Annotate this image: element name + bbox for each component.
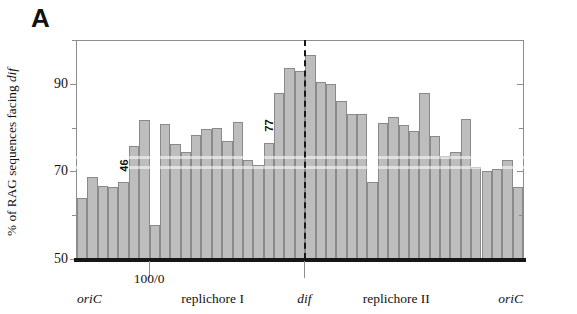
x-axis-label: oriC	[24, 291, 154, 307]
bar	[118, 182, 128, 259]
y-axis-minor-tick	[72, 128, 77, 129]
bar	[87, 177, 97, 259]
bar	[284, 68, 294, 259]
bar-series	[76, 40, 524, 259]
bar-value-callout: 77	[263, 118, 274, 134]
bar	[98, 186, 108, 259]
y-axis-major-tick	[70, 171, 77, 172]
bar	[191, 135, 201, 259]
x-axis-baseline	[74, 258, 526, 262]
bar	[108, 187, 118, 259]
bar	[357, 114, 367, 259]
bar-value-callout: 46	[118, 158, 129, 174]
y-axis-minor-tick-right	[519, 40, 524, 41]
bar	[316, 82, 326, 259]
bar	[430, 136, 440, 259]
bar	[367, 182, 377, 259]
x-axis-tick	[304, 261, 305, 278]
bar	[139, 120, 149, 259]
bar	[201, 129, 211, 259]
y-axis-minor-tick	[72, 40, 77, 41]
y-axis-tick-label: 90	[34, 77, 68, 91]
bar	[243, 160, 253, 259]
y-axis-title: % of RAG sequences facing dif	[0, 40, 24, 264]
bar	[388, 117, 398, 259]
bar	[440, 156, 450, 259]
bar	[222, 141, 232, 259]
bar	[513, 187, 523, 259]
dif-position-marker-line	[304, 40, 306, 259]
y-axis-major-tick	[70, 84, 77, 85]
y-axis-major-tick-right	[517, 84, 524, 85]
x-axis-label: oriC	[446, 291, 576, 307]
y-axis-major-tick-right	[517, 171, 524, 172]
bar	[492, 169, 502, 259]
bar	[253, 165, 263, 259]
bar	[336, 101, 346, 259]
bar	[378, 123, 388, 259]
bar	[471, 167, 481, 259]
plot-area: 4677	[76, 40, 524, 259]
panel-letter: A	[31, 5, 50, 31]
bar	[212, 128, 222, 259]
bar	[170, 144, 180, 259]
y-axis-minor-tick-right	[519, 215, 524, 216]
y-axis-minor-tick	[72, 215, 77, 216]
bar	[347, 114, 357, 259]
bar	[233, 122, 243, 259]
x-axis-label: 100/0	[84, 271, 214, 287]
y-axis-tick-label: 50	[34, 252, 68, 266]
bar	[77, 198, 87, 259]
bar	[450, 152, 460, 259]
bar	[264, 143, 274, 260]
bar	[419, 93, 429, 259]
bar	[305, 55, 315, 259]
bar	[160, 124, 170, 259]
y-axis-title-italic-gene: dif	[4, 68, 19, 82]
y-axis-tick-label: 70	[34, 164, 68, 178]
bar	[482, 171, 492, 259]
bar	[399, 125, 409, 259]
bar	[326, 84, 336, 259]
x-axis-label: replichore II	[331, 291, 461, 307]
bar	[150, 225, 160, 259]
bar	[181, 152, 191, 259]
bar	[502, 160, 512, 259]
bar	[274, 93, 284, 259]
y-axis-title-text: % of RAG sequences facing	[4, 82, 19, 236]
bar	[409, 131, 419, 259]
bar	[461, 119, 471, 259]
y-axis-minor-tick-right	[519, 128, 524, 129]
bar	[129, 146, 139, 259]
